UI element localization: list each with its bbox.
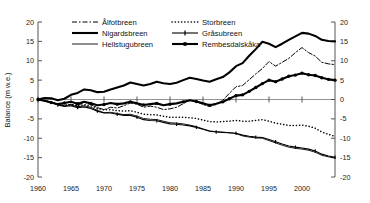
chart-figure: -20-20-15-15-10-10-5-5005510101515202019… (0, 0, 370, 203)
x-tick-label: 2000 (294, 184, 310, 193)
y-tick-label-left: 20 (26, 18, 34, 27)
legend-label: Nigardsbreen (102, 29, 148, 38)
legend-item--lfotbreen: Ålfotbreen (72, 18, 137, 27)
chart-canvas: -20-20-15-15-10-10-5-5005510101515202019… (0, 0, 370, 203)
legend-line-sample (172, 31, 198, 36)
y-tick-label-left: -5 (28, 114, 34, 123)
x-tick-label: 1985 (195, 184, 211, 193)
y-tick-label-right: 15 (340, 37, 348, 46)
series-gr-subreen (38, 98, 335, 159)
y-tick-label-left: 10 (26, 56, 34, 65)
legend-item-hellstugubreen: Hellstugubreen (72, 40, 153, 49)
data-series-group (36, 33, 336, 159)
chart-legend: ÅlfotbreenStorbreenNigardsbreenGråsubree… (72, 18, 261, 49)
x-tick-label: 1965 (63, 184, 79, 193)
x-tick-label: 1980 (162, 184, 178, 193)
y-tick-label-right: -10 (340, 134, 350, 143)
legend-label: Storbreen (202, 18, 235, 27)
legend-label: Rembesdalskåka (202, 40, 261, 49)
series-rembesdalsk-ka (36, 71, 336, 107)
y-tick-label-left: 5 (30, 76, 34, 85)
series-line (38, 100, 335, 158)
x-tick-label: 1990 (228, 184, 244, 193)
legend-label: Gråsubreen (202, 29, 242, 38)
y-tick-label-left: -15 (24, 153, 34, 162)
series-line (38, 100, 335, 159)
legend-label: Hellstugubreen (102, 40, 153, 49)
legend-label: Ålfotbreen (102, 18, 137, 27)
legend-line-sample (172, 42, 198, 46)
legend-item-gr-subreen: Gråsubreen (172, 29, 242, 38)
x-tick-label: 1975 (129, 184, 145, 193)
y-axis-title: Balance (m w.e.) (3, 72, 12, 127)
y-tick-label-right: -15 (340, 153, 350, 162)
x-tick-label: 1995 (261, 184, 277, 193)
y-tick-label-left: -10 (24, 134, 34, 143)
y-tick-label-right: 20 (340, 18, 348, 27)
x-tick-label: 1970 (96, 184, 112, 193)
x-tick-label: 1960 (30, 184, 46, 193)
y-tick-label-right: -20 (340, 173, 350, 182)
y-tick-label-right: 0 (340, 95, 344, 104)
series-hellstugubreen (38, 100, 335, 159)
y-tick-label-right: -5 (340, 114, 346, 123)
y-tick-label-right: 5 (340, 76, 344, 85)
legend-item-storbreen: Storbreen (172, 18, 235, 27)
series-storbreen (38, 100, 335, 137)
legend-item-nigardsbreen: Nigardsbreen (72, 29, 148, 38)
series-line (38, 100, 335, 137)
y-tick-label-left: 15 (26, 37, 34, 46)
y-tick-label-right: 10 (340, 56, 348, 65)
y-tick-label-left: -20 (24, 173, 34, 182)
y-tick-label-left: 0 (30, 95, 34, 104)
legend-item-rembesdalsk-ka: Rembesdalskåka (172, 40, 261, 49)
